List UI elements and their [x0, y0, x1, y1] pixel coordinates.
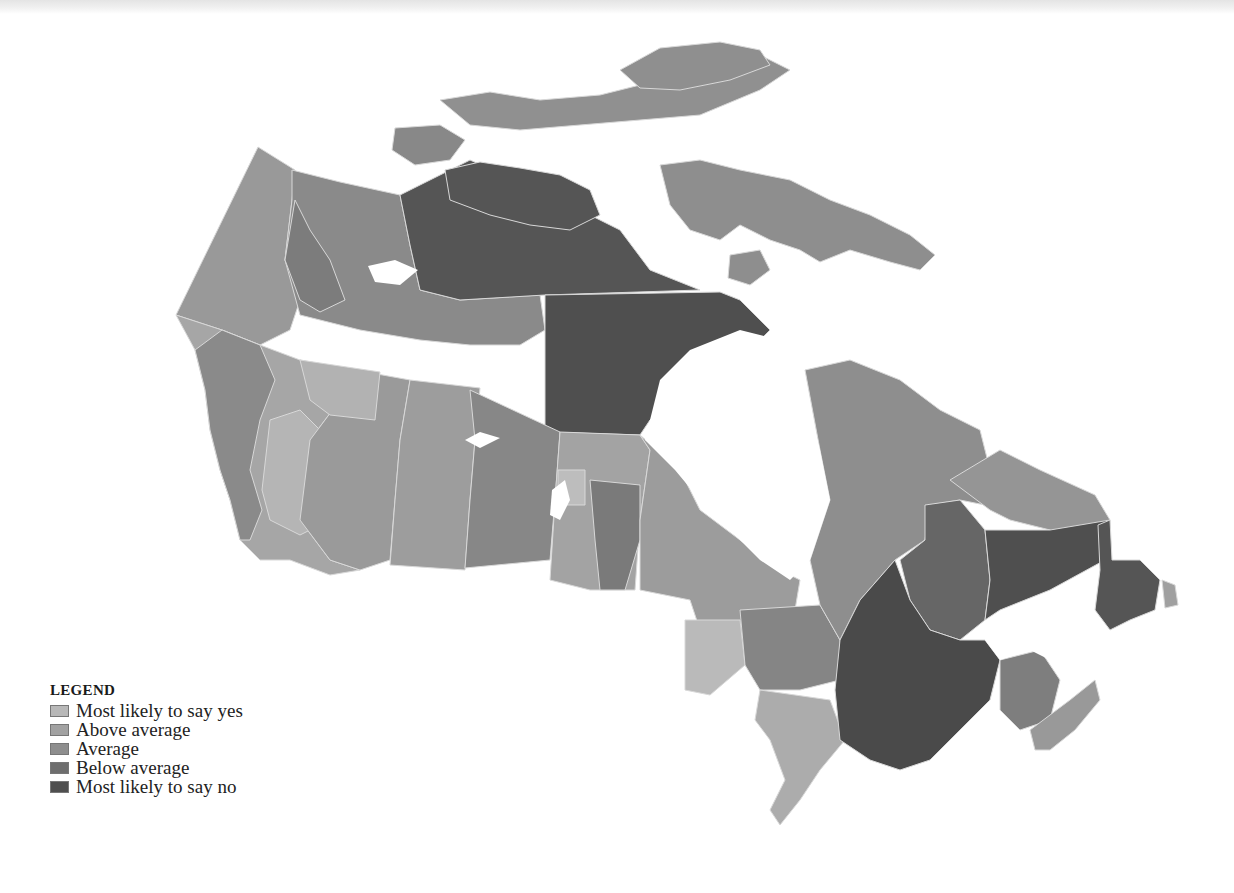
- legend-swatch-icon: [50, 743, 69, 755]
- region-yukon: [176, 147, 300, 345]
- region-baffin-island: [660, 160, 935, 270]
- legend-item-above-average: Above average: [50, 720, 243, 739]
- map-legend: LEGEND Most likely to say yes Above aver…: [50, 682, 243, 796]
- region-ontario-northwest-light: [685, 620, 745, 695]
- region-ontario-northeast: [740, 605, 840, 690]
- legend-swatch-icon: [50, 705, 69, 717]
- region-ontario-south: [755, 690, 845, 825]
- legend-item-average: Average: [50, 739, 243, 758]
- legend-swatch-icon: [50, 762, 69, 774]
- legend-swatch-icon: [50, 781, 69, 793]
- legend-swatch-icon: [50, 724, 69, 736]
- great-slave-lake: [400, 345, 480, 375]
- legend-item-most-likely-yes: Most likely to say yes: [50, 701, 243, 720]
- region-arctic-islands-west: [392, 125, 465, 165]
- legend-label: Most likely to say yes: [76, 701, 243, 720]
- legend-label: Below average: [76, 758, 189, 777]
- legend-title: LEGEND: [50, 682, 243, 699]
- legend-label: Average: [76, 739, 139, 758]
- legend-label: Most likely to say no: [76, 777, 236, 796]
- legend-label: Above average: [76, 720, 190, 739]
- region-avalon: [1162, 580, 1178, 608]
- legend-item-most-likely-no: Most likely to say no: [50, 777, 243, 796]
- region-newfoundland: [1095, 520, 1160, 630]
- legend-item-below-average: Below average: [50, 758, 243, 777]
- region-southampton-island: [728, 250, 770, 285]
